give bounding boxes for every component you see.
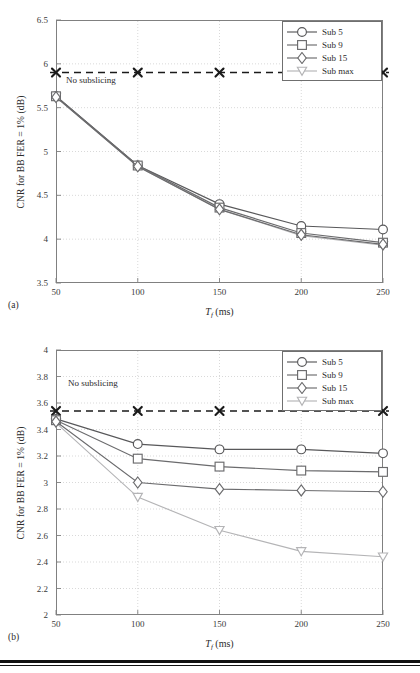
legend-label: Sub 5 [322,27,343,37]
x-tick-label: 50 [52,620,61,629]
legend-label: Sub max [322,396,354,406]
legend-item[interactable]: Sub 5 [287,25,376,38]
legend-item[interactable]: Sub 9 [287,368,376,381]
subfigure-caption-b: (b) [8,632,19,642]
legend-marker-diamond-icon [287,52,317,64]
legend-label: Sub 5 [322,357,343,367]
legend-label: Sub max [322,66,354,76]
legend-marker-triangle-down-icon [287,65,317,77]
legend-label: Sub 15 [322,383,347,393]
legend-marker-triangle-down-icon [287,395,317,407]
x-tick-label: 100 [131,288,145,297]
legend-marker-square-icon [287,39,317,51]
x-tick-label: 200 [295,620,309,629]
y-tick-label: 4 [0,346,48,355]
x-axis-subscript-b: f [211,643,213,651]
legend-b: Sub 5Sub 9Sub 15Sub max [282,351,382,411]
x-tick-label: 150 [213,620,227,629]
x-tick-label: 50 [52,288,61,297]
x-axis-label-a: Tf (ms) [56,306,383,317]
y-tick-label: 2 [0,611,48,620]
chart-panel-a: 3.544.555.566.550100150200250 CNR for BB… [0,0,420,336]
y-tick-label: 3.8 [0,372,48,381]
legend-item[interactable]: Sub max [287,64,376,77]
legend-label: Sub 9 [322,40,343,50]
y-tick-label: 3.5 [0,279,48,288]
legend-marker-circle-icon [287,356,317,368]
legend-item[interactable]: Sub max [287,394,376,407]
y-tick-label: 3.6 [0,399,48,408]
x-tick-label: 250 [376,620,390,629]
subfigure-caption-a: (a) [8,300,19,310]
legend-a: Sub 5Sub 9Sub 15Sub max [282,21,382,81]
no-subslicing-annotation-b: No subslicing [68,378,118,388]
x-axis-label-b: Tf (ms) [56,638,383,649]
y-tick-label: 2.4 [0,558,48,567]
legend-label: Sub 9 [322,370,343,380]
y-axis-label-b: CNR for BB FER = 1% (dB) [16,426,26,539]
y-axis-label-a: CNR for BB FER = 1% (dB) [16,95,26,208]
x-axis-subscript-a: f [211,311,213,319]
x-tick-label: 200 [295,288,309,297]
legend-item[interactable]: Sub 5 [287,355,376,368]
figure-container: 3.544.555.566.550100150200250 CNR for BB… [0,0,420,673]
y-tick-label: 4 [0,235,48,244]
x-tick-label: 250 [376,288,390,297]
page-rule-thin [0,665,420,666]
x-tick-label: 100 [131,620,145,629]
no-subslicing-annotation-a: No subslicing [66,75,116,85]
y-tick-label: 6 [0,59,48,68]
legend-label: Sub 15 [322,53,347,63]
y-tick-label: 2.2 [0,584,48,593]
y-tick-label: 6.5 [0,16,48,25]
legend-marker-square-icon [287,369,317,381]
legend-item[interactable]: Sub 9 [287,38,376,51]
x-tick-label: 150 [213,288,227,297]
x-axis-unit-b: (ms) [215,638,233,649]
legend-item[interactable]: Sub 15 [287,51,376,64]
chart-panel-b: 22.22.42.62.833.23.43.63.845010015020025… [0,336,420,636]
legend-marker-diamond-icon [287,382,317,394]
x-axis-unit-a: (ms) [215,306,233,317]
legend-item[interactable]: Sub 15 [287,381,376,394]
page-rule-thick [0,660,420,663]
legend-marker-circle-icon [287,26,317,38]
